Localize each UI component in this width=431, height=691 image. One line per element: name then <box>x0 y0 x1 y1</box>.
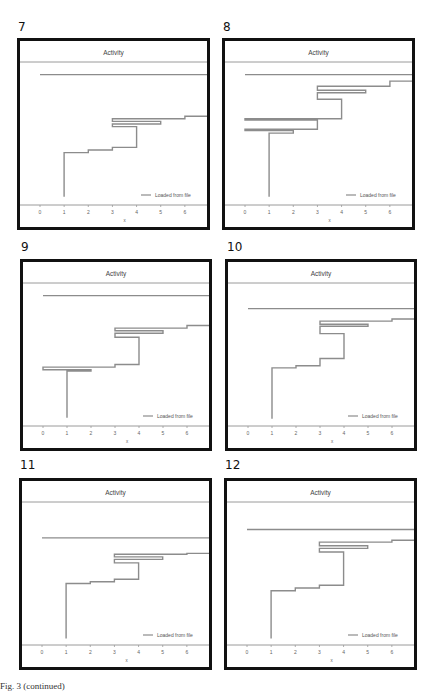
legend: Loaded from file <box>346 192 396 198</box>
chart-panel-12: ActivityLoaded from file01234567x <box>224 478 417 670</box>
x-axis-label: x <box>125 658 128 663</box>
x-tick-label: 4 <box>342 649 345 655</box>
legend: Loaded from file <box>348 413 398 419</box>
x-tick-label: 1 <box>268 209 271 215</box>
x-tick-label: 2 <box>295 430 298 436</box>
x-tick-label: 4 <box>138 430 141 436</box>
panel-number-label: 8 <box>223 20 231 34</box>
legend-label: Loaded from file <box>362 413 398 419</box>
chart-svg: ActivityLoaded from file01234567x <box>225 41 412 227</box>
x-tick-label: 5 <box>366 649 369 655</box>
x-tick-label: 6 <box>185 649 188 655</box>
x-tick-label: 4 <box>340 209 343 215</box>
x-tick-label: 3 <box>316 209 319 215</box>
chart-title: Activity <box>105 489 126 497</box>
chart-title: Activity <box>310 489 331 497</box>
series-line-loaded-from-file <box>40 75 207 197</box>
x-axis-label: x <box>331 439 334 444</box>
legend: Loaded from file <box>143 413 193 419</box>
x-tick-label: 5 <box>159 209 162 215</box>
chart-title: Activity <box>308 49 329 57</box>
figure-caption: Fig. 3 (continued) <box>0 681 65 691</box>
chart-panel-10: ActivityLoaded from file01234567x <box>225 259 417 451</box>
x-tick-label: 0 <box>246 649 249 655</box>
x-axis-label: x <box>123 218 126 223</box>
chart-panel-8: ActivityLoaded from file01234567x <box>222 38 415 230</box>
chart-svg: ActivityLoaded from file01234567x <box>228 262 414 448</box>
x-tick-label: 1 <box>66 430 69 436</box>
x-tick-label: 2 <box>294 649 297 655</box>
x-tick-label: 2 <box>292 209 295 215</box>
series-line-loaded-from-file <box>245 75 412 197</box>
x-tick-label: 6 <box>390 649 393 655</box>
series-line-loaded-from-file <box>248 309 414 419</box>
x-tick-label: 3 <box>111 209 114 215</box>
chart-title: Activity <box>106 270 127 278</box>
x-tick-label: 2 <box>90 430 93 436</box>
legend-label: Loaded from file <box>360 192 396 198</box>
x-tick-label: 4 <box>137 649 140 655</box>
x-tick-label: 1 <box>271 430 274 436</box>
x-tick-label: 2 <box>89 649 92 655</box>
legend-label: Loaded from file <box>155 192 191 198</box>
legend: Loaded from file <box>348 632 398 638</box>
x-tick-label: 5 <box>162 430 165 436</box>
x-tick-label: 1 <box>65 649 68 655</box>
x-tick-label: 6 <box>388 209 391 215</box>
x-axis-label: x <box>328 218 331 223</box>
chart-title: Activity <box>311 270 332 278</box>
legend: Loaded from file <box>141 192 191 198</box>
x-tick-label: 0 <box>39 209 42 215</box>
x-tick-label: 5 <box>161 649 164 655</box>
x-tick-label: 6 <box>186 430 189 436</box>
series-line-loaded-from-file <box>247 530 414 639</box>
x-tick-label: 0 <box>244 209 247 215</box>
x-tick-label: 2 <box>87 209 90 215</box>
panel-number-label: 11 <box>20 458 35 472</box>
panel-number-label: 12 <box>225 458 240 472</box>
x-tick-label: 0 <box>42 430 45 436</box>
x-tick-label: 6 <box>391 430 394 436</box>
chart-svg: ActivityLoaded from file01234567x <box>22 481 209 667</box>
x-tick-label: 3 <box>113 649 116 655</box>
x-tick-label: 3 <box>318 649 321 655</box>
x-tick-label: 6 <box>183 209 186 215</box>
chart-svg: ActivityLoaded from file01234567x <box>20 41 207 227</box>
x-tick-label: 1 <box>270 649 273 655</box>
x-tick-label: 1 <box>63 209 66 215</box>
x-tick-label: 5 <box>364 209 367 215</box>
chart-title: Activity <box>103 49 124 57</box>
chart-svg: ActivityLoaded from file01234567x <box>227 481 414 667</box>
series-line-loaded-from-file <box>43 326 209 418</box>
series-line-loaded-from-file <box>66 553 209 638</box>
x-tick-label: 4 <box>343 430 346 436</box>
panel-number-label: 10 <box>227 240 242 254</box>
x-tick-label: 3 <box>114 430 117 436</box>
x-tick-label: 4 <box>135 209 138 215</box>
x-tick-label: 0 <box>41 649 44 655</box>
x-axis-label: x <box>330 658 333 663</box>
x-axis-label: x <box>126 439 129 444</box>
x-tick-label: 3 <box>319 430 322 436</box>
chart-panel-7: ActivityLoaded from file01234567x <box>17 38 210 230</box>
panel-number-label: 7 <box>18 20 26 34</box>
legend: Loaded from file <box>143 632 193 638</box>
legend-label: Loaded from file <box>157 632 193 638</box>
chart-panel-9: ActivityLoaded from file01234567x <box>20 259 212 451</box>
x-tick-label: 0 <box>247 430 250 436</box>
x-tick-label: 5 <box>367 430 370 436</box>
chart-svg: ActivityLoaded from file01234567x <box>23 262 209 448</box>
chart-panel-11: ActivityLoaded from file01234567x <box>19 478 212 670</box>
legend-label: Loaded from file <box>362 632 398 638</box>
legend-label: Loaded from file <box>157 413 193 419</box>
panel-number-label: 9 <box>21 240 29 254</box>
